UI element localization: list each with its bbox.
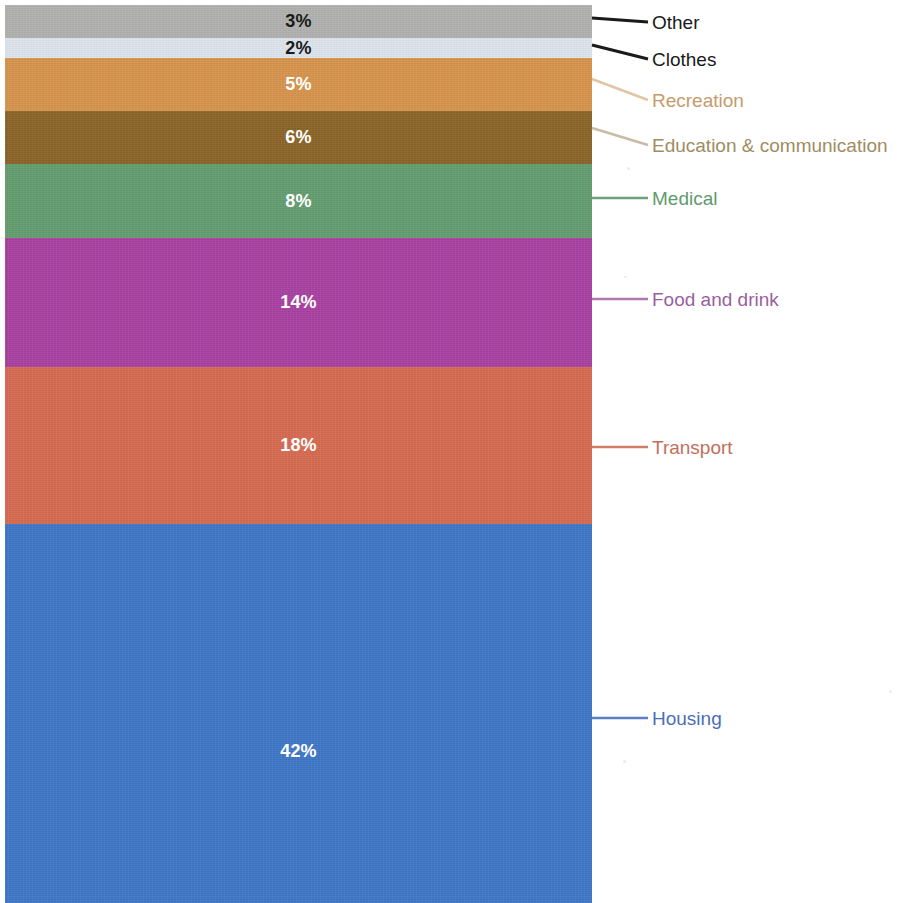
bar-segment-clothes[interactable]: 2% [5,38,592,58]
bar-segment-recreation[interactable]: 5% [5,58,592,111]
segment-value-medical: 8% [5,191,592,212]
paper-speck [623,760,626,763]
leader-line-clothes [592,45,648,59]
paper-speck [627,167,630,170]
legend-label-clothes[interactable]: Clothes [652,50,716,69]
legend-label-transport[interactable]: Transport [652,438,733,457]
segment-value-food-and-drink: 14% [5,292,592,313]
segment-value-housing: 42% [5,741,592,762]
leader-line-other [592,18,648,22]
leader-line-recreation [592,79,648,100]
segment-value-recreation: 5% [5,74,592,95]
segment-value-education-communication: 6% [5,127,592,148]
bar-segment-housing[interactable]: 42% [5,524,592,903]
legend-label-other[interactable]: Other [652,13,700,32]
bar-segment-education-communication[interactable]: 6% [5,111,592,164]
paper-speck [889,690,892,693]
bar-segment-food-and-drink[interactable]: 14% [5,238,592,367]
bar-segment-transport[interactable]: 18% [5,367,592,524]
leader-line-education-communication [592,128,648,145]
legend-label-education-communication[interactable]: Education & communication [652,136,888,155]
stacked-bar-column: 3% 2% 5% 6% 8% 14% 18% 42% [5,5,592,903]
legend-label-recreation[interactable]: Recreation [652,91,744,110]
legend-label-food-and-drink[interactable]: Food and drink [652,290,779,309]
paper-speck [624,276,627,278]
stacked-bar-chart: 3% 2% 5% 6% 8% 14% 18% 42% [0,0,912,903]
bar-segment-medical[interactable]: 8% [5,164,592,238]
legend-label-medical[interactable]: Medical [652,189,717,208]
bar-segment-other[interactable]: 3% [5,5,592,38]
segment-value-transport: 18% [5,435,592,456]
segment-value-other: 3% [5,11,592,32]
segment-value-clothes: 2% [5,38,592,59]
legend-label-housing[interactable]: Housing [652,709,722,728]
